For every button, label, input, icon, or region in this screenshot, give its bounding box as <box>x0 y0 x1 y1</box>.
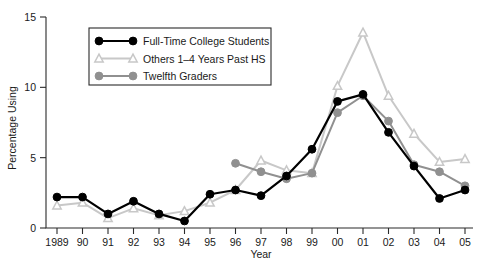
data-point-marker <box>129 72 137 80</box>
data-point-marker <box>95 72 103 80</box>
data-point-marker <box>257 168 265 176</box>
data-point-marker <box>334 109 342 117</box>
data-point-marker <box>95 37 103 45</box>
x-tick-label: 96 <box>230 236 242 248</box>
series-line <box>236 96 466 186</box>
data-point-marker <box>181 217 189 225</box>
y-axis-title: Percentage Using <box>6 86 18 170</box>
x-tick-label: 05 <box>459 236 471 248</box>
x-tick-label: 01 <box>357 236 369 248</box>
data-point-marker <box>206 198 214 206</box>
data-point-marker <box>384 91 392 99</box>
data-point-marker <box>129 37 137 45</box>
x-tick-label: 90 <box>77 236 89 248</box>
x-axis-title-label: Year <box>250 248 272 260</box>
data-point-marker <box>436 168 444 176</box>
data-point-marker <box>385 128 393 136</box>
legend-label: Twelfth Graders <box>143 70 217 82</box>
chart-legend: Full-Time College StudentsOthers 1–4 Yea… <box>89 28 271 85</box>
y-tick-label: 0 <box>30 222 36 234</box>
data-point-marker <box>308 145 316 153</box>
data-point-marker <box>130 197 138 205</box>
data-point-marker <box>334 98 342 106</box>
data-point-marker <box>53 201 61 209</box>
y-tick-label: 10 <box>24 81 36 93</box>
x-axis-title: Year <box>250 248 272 260</box>
data-point-marker <box>155 210 163 218</box>
data-point-marker <box>206 190 214 198</box>
x-tick-label: 94 <box>179 236 191 248</box>
data-point-marker <box>104 210 112 218</box>
y-axis-title-label: Percentage Using <box>6 86 18 170</box>
legend-label: Full-Time College Students <box>143 35 269 47</box>
x-tick-label: 97 <box>255 236 267 248</box>
legend-label: Others 1–4 Years Past HS <box>143 53 266 65</box>
data-point-marker <box>359 90 367 98</box>
x-tick-label: 1989 <box>45 236 69 248</box>
line-chart: Percentage Using 051015 1989909192939495… <box>0 0 485 265</box>
data-point-marker <box>436 195 444 203</box>
data-point-marker <box>232 186 240 194</box>
x-tick-label: 02 <box>383 236 395 248</box>
x-tick-label: 91 <box>102 236 114 248</box>
data-point-marker <box>385 117 393 125</box>
y-axis-ticks: 051015 <box>24 11 46 234</box>
data-point-marker <box>461 186 469 194</box>
data-point-marker <box>257 192 265 200</box>
data-point-marker <box>308 169 316 177</box>
x-tick-label: 98 <box>281 236 293 248</box>
x-tick-label: 93 <box>153 236 165 248</box>
data-point-marker <box>461 155 469 163</box>
chart-container: Percentage Using 051015 1989909192939495… <box>0 0 485 265</box>
data-point-marker <box>359 28 367 36</box>
x-tick-label: 04 <box>434 236 446 248</box>
data-point-marker <box>257 156 265 164</box>
x-tick-label: 03 <box>408 236 420 248</box>
data-point-marker <box>333 82 341 90</box>
x-tick-label: 92 <box>128 236 140 248</box>
data-point-marker <box>53 193 61 201</box>
x-tick-label: 00 <box>332 236 344 248</box>
data-point-marker <box>180 207 188 215</box>
x-tick-label: 99 <box>306 236 318 248</box>
data-point-marker <box>283 172 291 180</box>
series-twelfth-graders <box>232 92 469 190</box>
y-tick-label: 5 <box>30 152 36 164</box>
data-point-marker <box>232 159 240 167</box>
x-axis-ticks: 198990919293949596979899000102030405 <box>45 228 471 248</box>
y-tick-label: 15 <box>24 11 36 23</box>
data-point-marker <box>410 162 418 170</box>
data-point-marker <box>79 193 87 201</box>
x-tick-label: 95 <box>204 236 216 248</box>
